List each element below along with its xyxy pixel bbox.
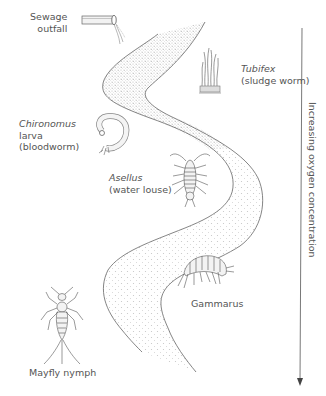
mayfly-nymph-icon [41, 287, 83, 364]
mayfly-nymph-label: Mayfly nymph [29, 367, 96, 379]
asellus-icon [170, 154, 210, 207]
gammarus-name: Gammarus [191, 298, 243, 310]
chironomus-stage: larva [19, 130, 79, 142]
sewage-pipe-icon [82, 16, 125, 45]
river [103, 22, 263, 372]
tubifex-common-name: (sludge worm) [241, 75, 310, 87]
sewage-label-line1: Sewage [30, 11, 67, 23]
asellus-name: Asellus [109, 172, 172, 184]
chironomus-name: Chironomus [19, 118, 79, 130]
sewage-label-line2: outfall [30, 23, 67, 35]
gammarus-label: Gammarus [191, 298, 243, 310]
chironomus-label: Chironomus larva (bloodworm) [19, 118, 79, 153]
asellus-common-name: (water louse) [109, 184, 172, 196]
oxygen-axis-label: Increasing oxygen concentration [307, 102, 318, 302]
mayfly-name: Mayfly nymph [29, 367, 96, 379]
tubifex-label: Tubifex (sludge worm) [241, 63, 310, 86]
chironomus-larva-icon [99, 116, 126, 155]
asellus-label: Asellus (water louse) [109, 172, 172, 195]
river-diagram [0, 0, 326, 396]
sewage-outfall-label: Sewage outfall [30, 11, 67, 34]
tubifex-icon [199, 48, 221, 93]
tubifex-name: Tubifex [241, 63, 310, 75]
chironomus-common-name: (bloodworm) [19, 141, 79, 153]
